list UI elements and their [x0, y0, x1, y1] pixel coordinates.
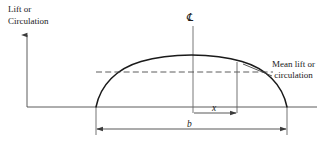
mean-lift-label-line2: circulation [272, 70, 315, 81]
x-dimension-label: x [212, 103, 216, 114]
lift-distribution-figure: Lift or Circulation ℄ Mean lift or circu… [0, 0, 325, 153]
y-axis-label-line1: Lift or [8, 3, 49, 15]
b-dimension-label: b [187, 119, 192, 130]
mean-label-leader-line [243, 64, 272, 76]
mean-lift-label: Mean lift or circulation [272, 59, 315, 81]
lift-distribution-curve [96, 55, 287, 107]
centerline-symbol-icon: ℄ [186, 11, 192, 24]
y-axis-label-line2: Circulation [8, 15, 49, 27]
y-axis-label: Lift or Circulation [8, 3, 49, 27]
mean-lift-label-line1: Mean lift or [272, 59, 315, 70]
